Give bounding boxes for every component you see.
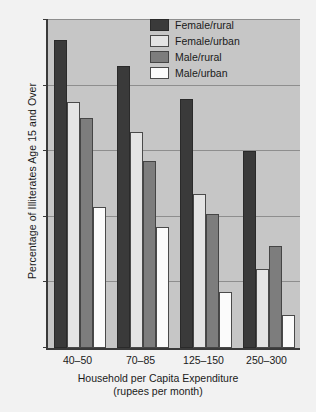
x-tick-label: 70–85: [106, 354, 176, 366]
x-axis-title-sub: (rupees per month): [113, 385, 202, 397]
legend-label: Female/urban: [175, 35, 240, 47]
legend-label: Female/rural: [175, 19, 234, 31]
bar: [117, 66, 130, 348]
legend-swatch-icon: [150, 19, 169, 31]
legend-swatch-icon: [150, 35, 169, 47]
bar: [143, 161, 156, 348]
bar: [243, 151, 256, 348]
x-axis-title-main: Household per Capita Expenditure: [78, 372, 239, 384]
chart-figure: Percentage of Illiterates Age 15 and Ove…: [0, 0, 316, 412]
x-axis-title: Household per Capita Expenditure (rupees…: [0, 372, 316, 398]
bar: [54, 40, 67, 348]
bar: [282, 315, 295, 348]
legend-label: Male/urban: [175, 67, 228, 79]
bar: [80, 118, 93, 348]
legend-label: Male/rural: [175, 51, 222, 63]
legend-swatch-icon: [150, 51, 169, 63]
x-tick-label: 40–50: [43, 354, 113, 366]
bar: [256, 269, 269, 348]
chart-legend: Female/ruralFemale/urbanMale/ruralMale/u…: [150, 17, 240, 80]
bar: [180, 99, 193, 348]
legend-swatch-icon: [150, 67, 169, 79]
x-tick-label: 250–300: [232, 354, 302, 366]
bar: [67, 102, 80, 348]
bar-group: [54, 20, 106, 348]
bar: [193, 194, 206, 348]
legend-item: Female/urban: [150, 33, 240, 48]
legend-item: Male/urban: [150, 65, 240, 80]
bar-group: [243, 20, 295, 348]
legend-item: Female/rural: [150, 17, 240, 32]
bar: [93, 207, 106, 348]
y-axis-title: Percentage of Illiterates Age 15 and Ove…: [26, 31, 38, 331]
bar: [206, 214, 219, 348]
bar: [269, 246, 282, 348]
bar: [130, 132, 143, 348]
bar: [219, 292, 232, 348]
x-tick-label: 125–150: [169, 354, 239, 366]
bar: [156, 227, 169, 348]
legend-item: Male/rural: [150, 49, 240, 64]
